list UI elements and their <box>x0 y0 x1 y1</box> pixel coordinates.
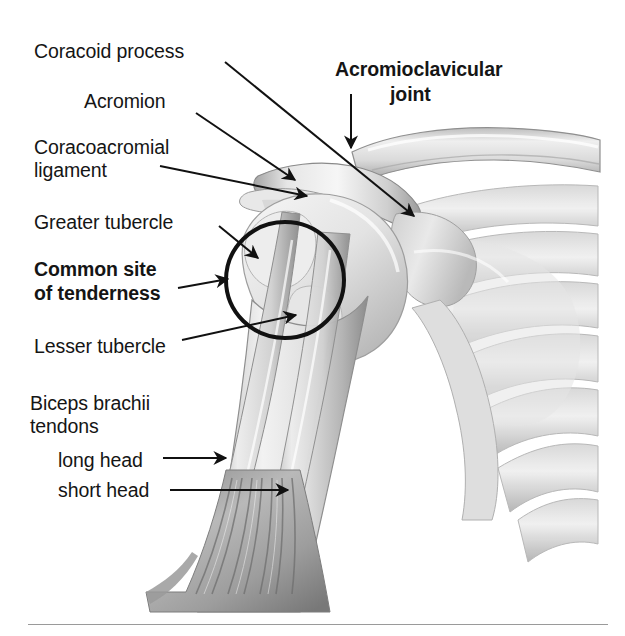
label-joint: joint <box>390 83 431 106</box>
anatomy-figure: Coracoid process Acromion Coracoacromial… <box>0 0 625 636</box>
label-biceps-brachii: Biceps brachii <box>30 392 150 415</box>
label-common-site: Common site <box>34 258 156 281</box>
label-tendons: tendons <box>30 415 99 438</box>
label-greater-tubercle: Greater tubercle <box>34 211 173 234</box>
footer-divider <box>28 624 608 625</box>
label-coracoid-process: Coracoid process <box>34 40 184 63</box>
leader-acromion <box>196 113 295 180</box>
leader-common-site <box>178 279 228 288</box>
label-long-head: long head <box>58 449 143 472</box>
label-acromioclavicular: Acromioclavicular <box>335 58 502 81</box>
label-short-head: short head <box>58 479 149 502</box>
biceps-muscle-belly <box>146 470 330 612</box>
clavicle <box>352 128 600 182</box>
label-ligament: ligament <box>34 159 107 182</box>
label-coracoacromial: Coracoacromial <box>34 136 169 159</box>
label-lesser-tubercle: Lesser tubercle <box>34 335 166 358</box>
label-acromion: Acromion <box>84 90 166 113</box>
label-of-tenderness: of tenderness <box>34 282 161 305</box>
